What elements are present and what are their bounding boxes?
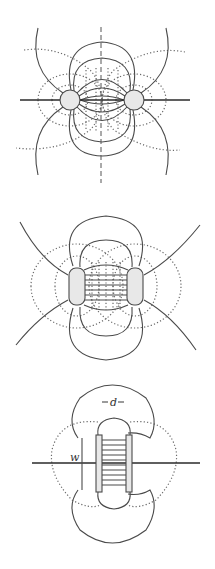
width-label: w bbox=[70, 451, 80, 464]
panel-parallel-plates: d w bbox=[32, 385, 200, 543]
panel-two-cylinders bbox=[16, 27, 190, 183]
field-diagram: d w bbox=[0, 0, 215, 569]
plate-left bbox=[96, 435, 102, 492]
separation-label: d bbox=[110, 396, 117, 409]
equipotential-lines bbox=[31, 244, 181, 328]
plate-right bbox=[126, 435, 132, 492]
conductor-right bbox=[124, 90, 144, 110]
panel-rounded-conductors bbox=[16, 216, 200, 360]
conductor-left bbox=[60, 90, 80, 110]
conductor-right bbox=[127, 268, 143, 305]
equipotential-lines bbox=[51, 422, 176, 507]
conductor-left bbox=[69, 268, 85, 305]
field-lines bbox=[16, 216, 200, 360]
